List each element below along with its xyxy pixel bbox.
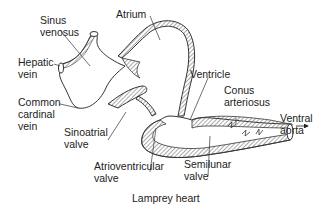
diagram-caption: Lamprey heart	[132, 192, 200, 204]
label-sinus-venosus: Sinus venosus	[40, 14, 79, 38]
valve-flaps	[108, 86, 156, 116]
label-atrioventricular-valve: Atrioventricular valve	[94, 160, 164, 184]
label-ventral-aorta: Ventral aorta	[280, 112, 313, 136]
label-ventricle: Ventricle	[190, 68, 230, 80]
label-conus-arteriosus: Conus arteriosus	[224, 84, 270, 108]
label-atrium: Atrium	[116, 8, 146, 20]
ventricle-conus-shape	[142, 116, 293, 158]
label-hepatic-vein: Hepatic vein	[18, 56, 54, 80]
label-sinoatrial-valve: Sinoatrial valve	[64, 126, 108, 150]
sinus-venosus-shape	[59, 32, 126, 109]
label-common-cardinal-vein: Common cardinal vein	[18, 96, 61, 132]
label-semilunar-valve: Semilunar valve	[184, 158, 231, 182]
atrium-shape	[118, 21, 195, 116]
